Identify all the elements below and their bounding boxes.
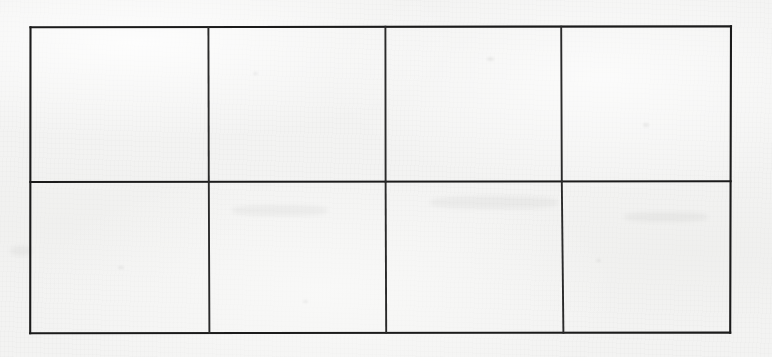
table-cell-text xyxy=(208,27,385,182)
table-cell-r1c3[interactable] xyxy=(385,27,561,182)
table-cell-r1c1[interactable] xyxy=(30,27,208,182)
table-cell-text xyxy=(385,27,561,182)
table-cell-r2c4[interactable] xyxy=(561,182,731,333)
table-cell-r1c2[interactable] xyxy=(208,27,385,182)
table-cell-text xyxy=(30,27,208,182)
table-cell-r2c3[interactable] xyxy=(385,182,561,333)
table-cell-text xyxy=(561,27,731,182)
scanned-page xyxy=(0,0,772,357)
table-cell-text xyxy=(561,182,731,333)
table-cell-r1c4[interactable] xyxy=(561,27,731,182)
table-grid xyxy=(30,27,731,333)
table-cell-r2c1[interactable] xyxy=(30,182,208,333)
table-cell-text xyxy=(385,182,561,333)
table-cell-text xyxy=(208,182,385,333)
table-cell-text xyxy=(30,182,208,333)
table-cell-r2c2[interactable] xyxy=(208,182,385,333)
